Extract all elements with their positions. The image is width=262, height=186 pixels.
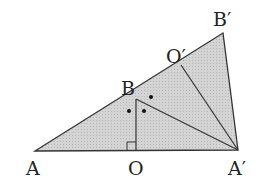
label-A: A (25, 157, 40, 179)
label-B: B (121, 77, 135, 99)
angle-dot (149, 95, 153, 99)
angle-dot (142, 109, 146, 113)
angle-dot (127, 109, 131, 113)
label-O: O (128, 157, 144, 179)
geometry-diagram: A O A′ B O′ B′ (0, 0, 262, 186)
label-Op: O′ (166, 45, 186, 67)
label-Ap: A′ (227, 157, 246, 179)
label-Bp: B′ (213, 8, 231, 30)
